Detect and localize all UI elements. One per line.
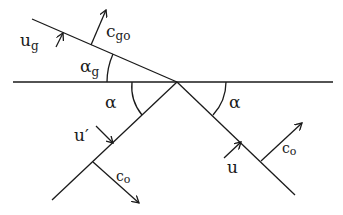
u-prime-label: u′ <box>74 125 89 145</box>
incident-wavefront-line <box>32 19 177 82</box>
alpha-g-label: αg <box>80 56 99 79</box>
alpha-left-label: α <box>105 92 117 112</box>
u-g-label: ug <box>20 30 39 53</box>
wave-reflection-diagram: ug cgo αg α α u′ co u co <box>0 0 343 215</box>
c-o-left-label: co <box>116 168 131 186</box>
alpha-right-arc <box>213 82 226 115</box>
u-arrow-icon <box>224 142 241 158</box>
u-label: u <box>227 157 238 177</box>
u-g-arrow-icon <box>56 33 63 47</box>
c-go-label: cgo <box>106 21 130 43</box>
c-go-arrow-icon <box>91 10 106 45</box>
alpha-left-arc <box>132 82 142 115</box>
u-prime-arrow-icon <box>96 126 113 143</box>
alpha-right-label: α <box>229 92 241 112</box>
alpha-g-arc <box>107 54 113 82</box>
c-o-right-label: co <box>282 140 297 158</box>
